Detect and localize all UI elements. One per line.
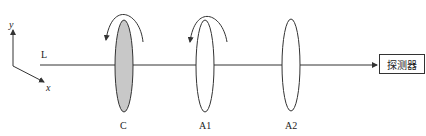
x-axis-label: x — [46, 83, 50, 93]
optical-diagram — [0, 0, 426, 136]
element-c-label: C — [120, 121, 127, 131]
element-a1 — [196, 20, 214, 112]
element-a2-label: A2 — [285, 121, 297, 131]
detector-box: 探测器 — [379, 54, 425, 74]
element-a2 — [282, 19, 300, 111]
beam-label: L — [41, 50, 47, 60]
element-a1-label: A1 — [199, 121, 211, 131]
element-c — [115, 20, 133, 112]
y-axis-label: y — [9, 20, 13, 30]
coordinate-axes — [13, 30, 44, 82]
